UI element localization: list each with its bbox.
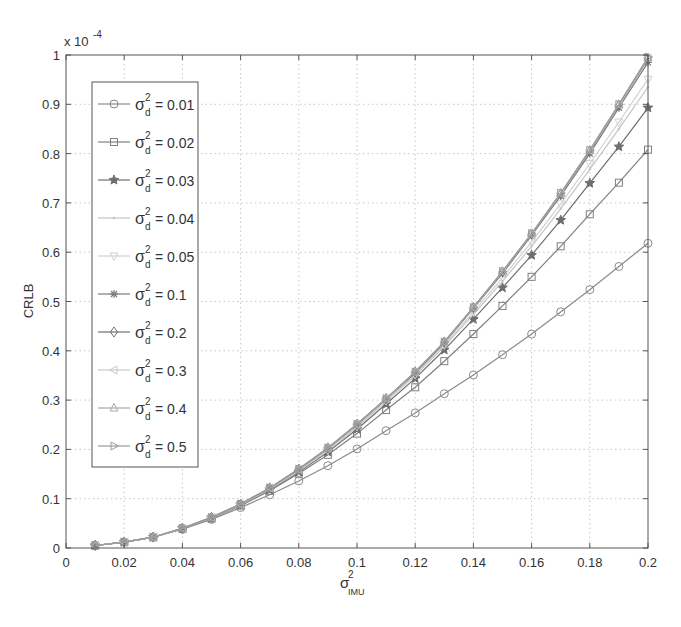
y-axis-tick-labels: 00.10.20.30.40.50.60.70.80.91 [42, 48, 60, 556]
legend-sigma: σ [135, 134, 145, 151]
x-tick-label: 0.16 [519, 555, 544, 570]
legend-sup: 2 [145, 206, 151, 217]
y-tick-label: 0.1 [42, 492, 60, 507]
x-tick-label: 0.04 [170, 555, 195, 570]
point-marker-icon [113, 217, 115, 219]
legend-sub: d [145, 145, 151, 156]
legend-sigma: σ [135, 362, 145, 379]
y-exponent-base: x 10 [64, 34, 89, 49]
y-tick-label: 1 [53, 48, 60, 63]
legend-value: = 0.2 [155, 325, 187, 341]
legend-value: = 0.5 [155, 439, 187, 455]
legend-sigma: σ [135, 248, 145, 265]
legend-value: = 0.02 [155, 135, 195, 151]
legend-sup: 2 [145, 244, 151, 255]
x-axis-tick-labels: 00.020.040.060.080.10.120.140.160.180.2 [62, 555, 657, 570]
x-label-sub: IMU [348, 587, 365, 597]
legend-value: = 0.4 [155, 401, 187, 417]
y-tick-label: 0.3 [42, 393, 60, 408]
legend-value: = 0.05 [155, 249, 195, 265]
legend-sup: 2 [145, 92, 151, 103]
y-tick-label: 0.8 [42, 147, 60, 162]
legend-value: = 0.3 [155, 363, 187, 379]
legend-sigma: σ [135, 400, 145, 417]
legend-value: = 0.03 [155, 173, 195, 189]
x-tick-label: 0.1 [348, 555, 366, 570]
x-tick-label: 0.14 [461, 555, 486, 570]
x-axis-label: σ 2 IMU [340, 569, 365, 597]
legend-sub: d [145, 221, 151, 232]
legend-sub: d [145, 411, 151, 422]
y-exponent-label: x 10 -4 [64, 29, 102, 49]
legend-sup: 2 [145, 358, 151, 369]
asterisk-marker-icon [110, 290, 118, 298]
y-axis-label: CRLB [21, 284, 36, 319]
x-tick-label: 0.02 [112, 555, 137, 570]
legend-value: = 0.01 [155, 97, 195, 113]
x-label-sup: 2 [348, 569, 354, 580]
legend-sigma: σ [135, 172, 145, 189]
legend-sub: d [145, 259, 151, 270]
legend-sup: 2 [145, 320, 151, 331]
x-tick-label: 0.2 [639, 555, 657, 570]
crlb-line-chart: 00.020.040.060.080.10.120.140.160.180.2 … [0, 0, 681, 627]
legend-sub: d [145, 335, 151, 346]
y-tick-label: 0.2 [42, 442, 60, 457]
y-tick-label: 0.7 [42, 196, 60, 211]
point-marker-icon [618, 128, 620, 130]
y-exponent-power: -4 [93, 29, 102, 40]
x-tick-label: 0.18 [577, 555, 602, 570]
legend-sup: 2 [145, 130, 151, 141]
y-tick-label: 0.4 [42, 344, 60, 359]
legend-sub: d [145, 373, 151, 384]
x-tick-label: 0 [62, 555, 69, 570]
legend-sup: 2 [145, 282, 151, 293]
x-tick-label: 0.12 [403, 555, 428, 570]
legend-sup: 2 [145, 168, 151, 179]
x-tick-label: 0.06 [228, 555, 253, 570]
legend-sub: d [145, 107, 151, 118]
legend-sup: 2 [145, 434, 151, 445]
legend-sigma: σ [135, 96, 145, 113]
legend-value: = 0.1 [155, 287, 187, 303]
legend-value: = 0.04 [155, 211, 195, 227]
legend-sub: d [145, 449, 151, 460]
legend-sigma: σ [135, 324, 145, 341]
y-tick-label: 0.9 [42, 97, 60, 112]
legend: σ2d= 0.01σ2d= 0.02σ2d= 0.03σ2d= 0.04σ2d=… [92, 82, 198, 467]
legend-sub: d [145, 183, 151, 194]
legend-sup: 2 [145, 396, 151, 407]
x-tick-label: 0.08 [286, 555, 311, 570]
legend-sigma: σ [135, 210, 145, 227]
y-tick-label: 0.6 [42, 245, 60, 260]
y-tick-label: 0.5 [42, 295, 60, 310]
legend-sigma: σ [135, 438, 145, 455]
y-tick-label: 0 [53, 541, 60, 556]
legend-sigma: σ [135, 286, 145, 303]
legend-sub: d [145, 297, 151, 308]
